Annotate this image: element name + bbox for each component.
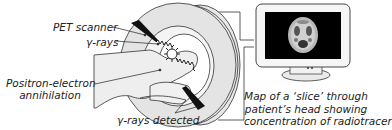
annihilation-starburst-icon: [164, 46, 180, 62]
label-gamma-rays: γ-rays: [86, 36, 118, 48]
label-annihilation-line1: Positron-electron: [6, 77, 94, 89]
label-map-line3: concentration of radiotracer: [244, 115, 368, 128]
label-annihilation-line2: annihilation: [6, 89, 94, 101]
label-map-slice: Map of a ‘slice’ through patient’s head …: [244, 90, 368, 128]
label-gamma-detected: γ-rays detected: [117, 114, 200, 126]
label-map-line1: Map of a ‘slice’ through: [244, 90, 368, 103]
label-pet-scanner: PET scanner: [53, 21, 117, 33]
label-map-line2: patient’s head showing: [244, 103, 368, 116]
label-annihilation: Positron-electron annihilation: [6, 77, 94, 101]
brain-scan-image: [288, 17, 318, 53]
